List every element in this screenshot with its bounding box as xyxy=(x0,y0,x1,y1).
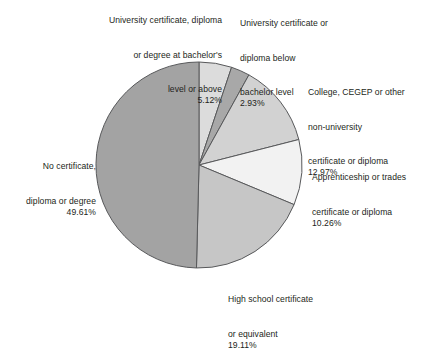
slice-value-highschool: 19.11% xyxy=(228,340,378,351)
slice-label-no-certificate-line1: No certificate, xyxy=(43,161,96,171)
slice-label-no-certificate: No certificate, diploma or degree 49.61% xyxy=(2,150,96,230)
slice-label-apprenticeship: Apprenticeship or trades certificate or … xyxy=(312,161,434,241)
slice-label-below-bachelor-line3: bachelor level xyxy=(240,87,294,97)
slice-label-highschool-line1: High school certificate xyxy=(228,294,313,304)
slice-value-apprenticeship: 10.26% xyxy=(312,218,434,229)
slice-label-college-line2: non-university xyxy=(308,122,362,132)
slice-label-bachelor-line2: or degree at bachelor's xyxy=(133,50,222,60)
slice-label-below-bachelor-line1: University certificate or xyxy=(240,18,328,28)
slice-label-apprenticeship-line2: certificate or diploma xyxy=(312,207,392,217)
slice-label-highschool: High school certificate or equivalent 19… xyxy=(228,283,378,352)
slice-value-bachelor: 5.12% xyxy=(62,95,222,106)
slice-label-bachelor-line3: level or above xyxy=(168,84,222,94)
slice-label-no-certificate-line2: diploma or degree xyxy=(26,196,96,206)
slice-value-no-certificate: 49.61% xyxy=(2,207,96,218)
slice-label-bachelor: University certificate, diploma or degre… xyxy=(62,4,222,118)
slice-label-college-line1: College, CEGEP or other xyxy=(308,87,405,97)
slice-label-below-bachelor-line2: diploma below xyxy=(240,53,295,63)
slice-label-bachelor-line1: University certificate, diploma xyxy=(109,15,222,25)
slice-label-apprenticeship-line1: Apprenticeship or trades xyxy=(312,172,406,182)
slice-label-highschool-line2: or equivalent xyxy=(228,329,278,339)
